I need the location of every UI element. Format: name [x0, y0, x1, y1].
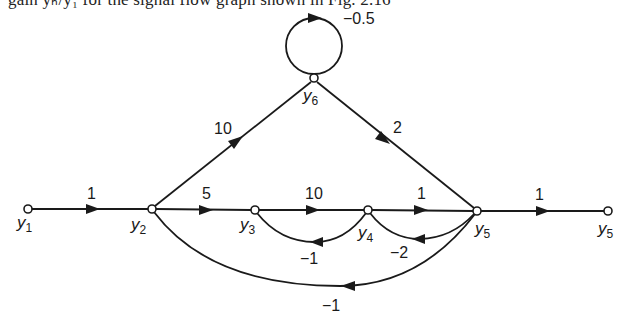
feedback-y5-y4: −2	[370, 213, 474, 261]
node-y5	[473, 207, 481, 215]
gain-label-y2-y3: 5	[202, 185, 211, 202]
gain-label-y4-y3: −1	[300, 250, 318, 267]
node-label-y4: y4	[357, 223, 374, 245]
node-label-y2: y2	[130, 215, 147, 237]
node-label-y6: y6	[302, 86, 319, 108]
node-label-y1: y1	[16, 213, 33, 235]
branch-y3-y4: 10	[259, 185, 364, 215]
gain-label-y5-y4: −2	[390, 244, 408, 261]
gain-label-y2-y6: 10	[214, 120, 232, 137]
node-y3	[251, 206, 259, 214]
arrow-icon	[308, 13, 322, 23]
node-y6	[310, 74, 318, 82]
branch-y4-y5: 1	[372, 185, 473, 215]
gain-label-y5-output: 1	[535, 186, 544, 203]
arrow-icon	[306, 205, 320, 215]
branch-y5-output: 1	[481, 186, 604, 216]
node-label-y5: y5	[474, 219, 491, 241]
arrow-icon	[536, 206, 550, 216]
arrow-icon	[375, 131, 390, 144]
arrow-icon	[199, 205, 213, 215]
node-label-y3: y3	[239, 215, 256, 237]
arrow-icon	[414, 205, 428, 215]
arrow-icon	[341, 281, 355, 291]
arrow-icon	[310, 237, 323, 247]
branch-y1-y2: 1	[31, 185, 148, 214]
node-y4	[364, 206, 372, 214]
gain-label-y6-y5: 2	[393, 119, 402, 136]
arrow-icon	[86, 204, 100, 214]
gain-label-y6-self: −0.5	[343, 10, 375, 27]
node-y5-output	[604, 207, 612, 215]
branch-y2-y3: 5	[156, 185, 251, 215]
branch-y6-y5: 2	[317, 82, 474, 208]
gain-label-y4-y5: 1	[417, 185, 426, 202]
gain-label-y1-y2: 1	[87, 185, 96, 202]
node-y1	[24, 205, 32, 213]
branch-y2-y6: 10	[155, 82, 311, 206]
gain-label-y3-y4: 10	[305, 185, 323, 202]
signal-flow-graph: 1 5 10 1 1 10 2 −0.5 −1	[0, 0, 632, 328]
self-loop-y6: −0.5	[286, 10, 375, 74]
arrow-icon	[412, 234, 425, 244]
node-label-y5-output: y5	[597, 219, 614, 241]
gain-label-y5-y2: −1	[322, 297, 340, 314]
node-y2	[148, 205, 156, 213]
feedback-y4-y3: −1	[257, 213, 366, 267]
